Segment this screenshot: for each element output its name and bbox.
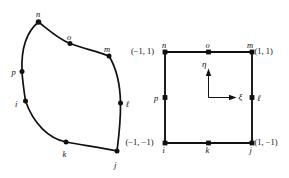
reference-node-label-j: j xyxy=(250,146,252,155)
corner-coordinate-n: (−1, 1) xyxy=(131,47,154,56)
reference-node-label-o: o xyxy=(206,41,210,50)
corner-coordinate-i: (−1, −1) xyxy=(126,138,154,147)
reference-node-label-n: n xyxy=(162,41,166,50)
node-dot-n xyxy=(163,50,168,55)
figure-root: i k j ℓ m o n p i xyxy=(0,0,289,178)
axis-label-xi: ξ xyxy=(239,93,243,102)
axis-eta-arrowhead xyxy=(206,69,211,77)
axis-xi-arrowhead xyxy=(229,95,237,100)
node-dot-o xyxy=(206,50,211,55)
node-dot-p xyxy=(163,95,168,100)
reference-node-label-i: i xyxy=(163,146,165,155)
axis-label-eta: η xyxy=(202,60,206,69)
natural-coordinate-axes xyxy=(206,69,237,101)
reference-node-label-p: p xyxy=(154,94,158,103)
node-dot-l xyxy=(250,95,255,100)
corner-coordinate-m: (1, 1) xyxy=(255,47,273,56)
reference-square-graphic xyxy=(0,0,289,178)
reference-node-label-m: m xyxy=(247,41,253,50)
reference-node-label-k: k xyxy=(206,146,210,155)
reference-node-label-l: ℓ xyxy=(257,94,261,103)
corner-coordinate-j: (1, −1) xyxy=(255,138,278,147)
